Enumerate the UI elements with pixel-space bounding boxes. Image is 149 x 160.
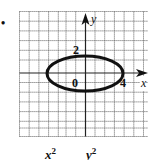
formula-x-squared: x2: [45, 146, 56, 160]
grid: [20, 12, 149, 137]
x-axis-label: x: [140, 76, 146, 91]
formula-x-exp: 2: [52, 146, 57, 156]
formula-y-squared: y2: [86, 146, 96, 160]
origin-label: 0: [72, 76, 78, 91]
y-axis-label: y: [91, 12, 96, 27]
tick-label-y2: 2: [73, 43, 79, 58]
formula-y-exp: 2: [92, 146, 97, 156]
tick-label-x4: 4: [120, 76, 126, 91]
